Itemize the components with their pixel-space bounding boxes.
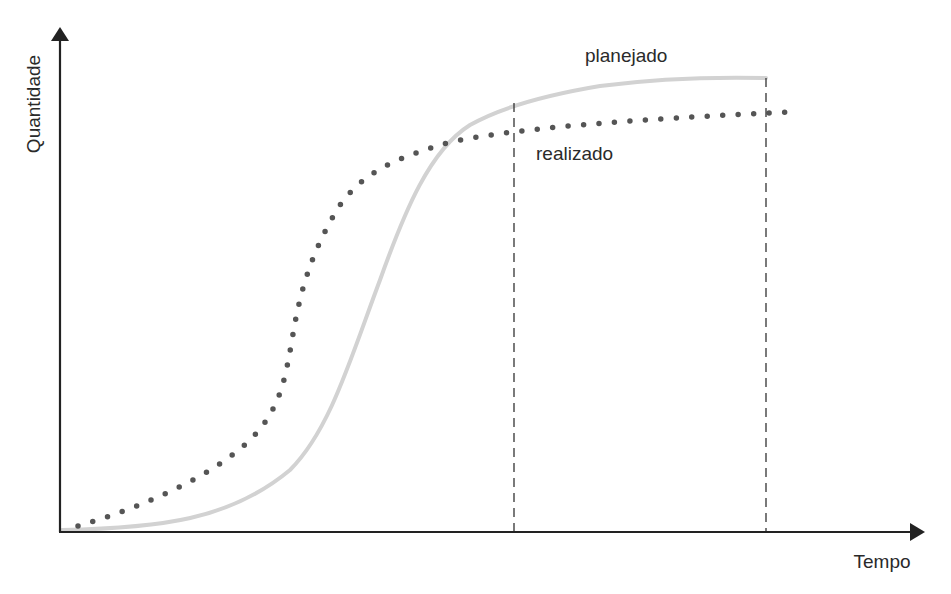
actual-label: realizado bbox=[536, 143, 613, 164]
planned-curve bbox=[62, 78, 766, 530]
actual-curve bbox=[78, 112, 790, 526]
s-curve-diagram: Quantidade Tempo planejado realizado bbox=[0, 0, 951, 594]
y-axis-label: Quantidade bbox=[23, 55, 44, 153]
x-axis-arrow-icon bbox=[910, 523, 925, 541]
x-axis-label: Tempo bbox=[853, 551, 910, 572]
y-axis-arrow-icon bbox=[51, 27, 69, 41]
planned-label: planejado bbox=[585, 45, 667, 66]
